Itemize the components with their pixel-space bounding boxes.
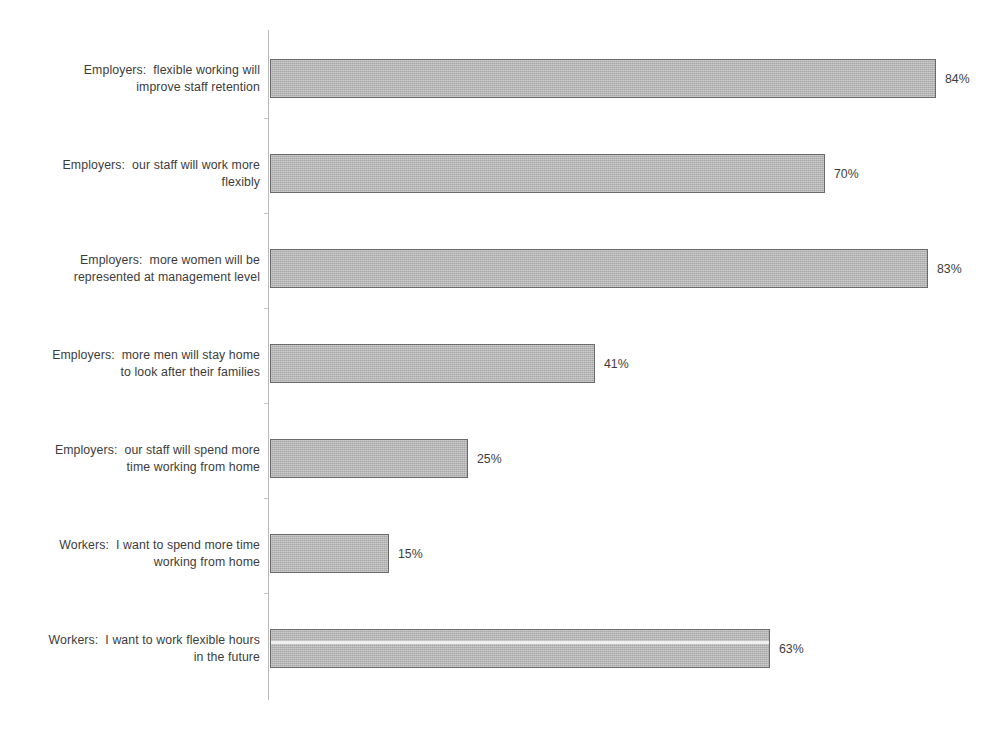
bar-row: Workers: I want to spend more timeworkin… bbox=[0, 506, 1006, 601]
bar bbox=[270, 154, 825, 193]
bar-category-label-line1: Employers: our staff will spend more bbox=[55, 442, 260, 459]
axis-tick bbox=[264, 118, 269, 119]
bar-track: 25% bbox=[270, 439, 502, 478]
bar-row: Employers: flexible working willimprove … bbox=[0, 31, 1006, 126]
bar bbox=[270, 344, 595, 383]
bar-category-label-line1: Employers: flexible working will bbox=[84, 62, 260, 79]
bar-value-label: 41% bbox=[604, 357, 629, 371]
axis-tick bbox=[264, 403, 269, 404]
bar-category-label-line2: working from home bbox=[154, 554, 260, 571]
bar-category-label-line1: Employers: more women will be bbox=[80, 252, 260, 269]
bar-value-label: 63% bbox=[779, 642, 804, 656]
bar-row: Workers: I want to work flexible hoursin… bbox=[0, 601, 1006, 696]
axis-tick bbox=[264, 498, 269, 499]
bar bbox=[270, 534, 389, 573]
bar-category-label: Employers: more women will berepresented… bbox=[8, 221, 260, 316]
plot-area: Employers: flexible working willimprove … bbox=[0, 0, 1006, 736]
bar-category-label-line1: Employers: more men will stay home bbox=[52, 347, 260, 364]
bar-track: 83% bbox=[270, 249, 962, 288]
bar-category-label-line2: represented at management level bbox=[74, 269, 260, 286]
bar-category-label-line1: Employers: our staff will work more bbox=[63, 157, 260, 174]
bar-row: Employers: more women will berepresented… bbox=[0, 221, 1006, 316]
bar bbox=[270, 59, 936, 98]
bar-value-label: 15% bbox=[398, 547, 423, 561]
bar-track: 15% bbox=[270, 534, 423, 573]
bar-value-label: 83% bbox=[937, 262, 962, 276]
bar-value-label: 84% bbox=[945, 72, 970, 86]
bar-category-label: Employers: our staff will work moreflexi… bbox=[8, 126, 260, 221]
bar-category-label: Workers: I want to spend more timeworkin… bbox=[8, 506, 260, 601]
bar-category-label-line2: improve staff retention bbox=[136, 79, 260, 96]
bar-track: 84% bbox=[270, 59, 970, 98]
bar-category-label-line2: time working from home bbox=[127, 459, 260, 476]
bar-category-label-line2: to look after their families bbox=[121, 364, 261, 381]
bar-row: Employers: our staff will spend moretime… bbox=[0, 411, 1006, 506]
bar-value-label: 25% bbox=[477, 452, 502, 466]
bar bbox=[270, 439, 468, 478]
bar-category-label: Employers: our staff will spend moretime… bbox=[8, 411, 260, 506]
bar-row: Employers: our staff will work moreflexi… bbox=[0, 126, 1006, 221]
axis-tick bbox=[264, 593, 269, 594]
bar-row: Employers: more men will stay hometo loo… bbox=[0, 316, 1006, 411]
bar-category-label: Employers: flexible working willimprove … bbox=[8, 31, 260, 126]
bar-track: 70% bbox=[270, 154, 859, 193]
bar-track: 41% bbox=[270, 344, 629, 383]
axis-tick bbox=[264, 213, 269, 214]
bar-category-label-line1: Workers: I want to spend more time bbox=[59, 537, 260, 554]
bar-category-label-line2: in the future bbox=[194, 649, 260, 666]
bar-category-label: Workers: I want to work flexible hoursin… bbox=[8, 601, 260, 696]
axis-tick bbox=[264, 308, 269, 309]
bar bbox=[270, 629, 770, 668]
bar-category-label: Employers: more men will stay hometo loo… bbox=[8, 316, 260, 411]
bar-category-label-line2: flexibly bbox=[222, 174, 260, 191]
bar-track: 63% bbox=[270, 629, 804, 668]
bar-value-label: 70% bbox=[834, 167, 859, 181]
bar-category-label-line1: Workers: I want to work flexible hours bbox=[49, 632, 260, 649]
bar bbox=[270, 249, 928, 288]
bar-chart-page: Employers: flexible working willimprove … bbox=[0, 0, 1006, 736]
